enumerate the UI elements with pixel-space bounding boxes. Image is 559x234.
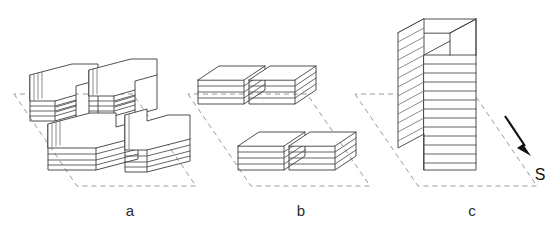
panel-a-block-3	[48, 113, 138, 170]
panel-b: b	[188, 66, 370, 219]
panel-b-block-4	[289, 132, 356, 170]
direction-arrow-label: S	[535, 166, 546, 183]
panel-c: S c	[355, 19, 545, 219]
diagram-canvas: a	[0, 0, 559, 234]
panel-a-block-2	[89, 59, 157, 116]
panel-a: a	[14, 59, 196, 219]
panel-c-label: c	[468, 202, 476, 219]
panel-c-stack	[398, 19, 476, 170]
panel-a-block-4	[125, 109, 190, 172]
panel-a-label: a	[126, 202, 135, 219]
panel-b-block-2	[249, 66, 316, 104]
figure-root: a	[0, 0, 559, 234]
direction-arrow: S	[505, 116, 545, 183]
arrow-head-icon	[517, 144, 531, 156]
panel-b-label: b	[297, 202, 305, 219]
panel-a-block-1	[30, 64, 98, 121]
